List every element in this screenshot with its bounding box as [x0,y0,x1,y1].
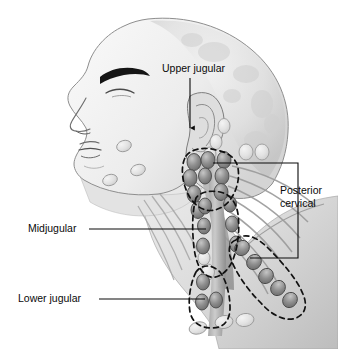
lymph-node-diagram: Upper jugular Posterior cervical Midjugu… [0,0,338,349]
label-posterior-cervical-line1: Posterior [280,184,323,196]
label-lower-jugular: Lower jugular [18,292,82,304]
illustration-canvas: Upper jugular Posterior cervical Midjugu… [0,0,338,349]
label-upper-jugular: Upper jugular [162,62,226,74]
label-posterior-cervical-line2: cervical [280,197,316,209]
label-midjugular: Midjugular [28,222,77,234]
